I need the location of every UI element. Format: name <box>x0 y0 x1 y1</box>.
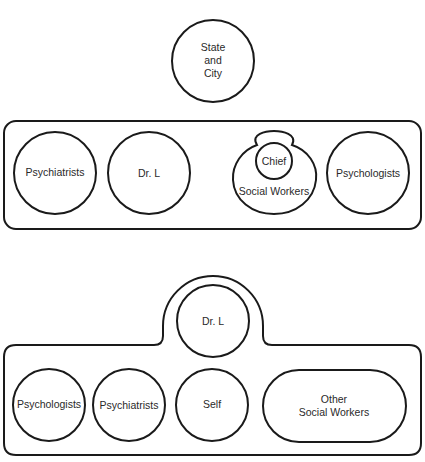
top-psychiatrists-node: Psychiatrists <box>14 132 96 214</box>
state-and-city-label-line1: State <box>201 41 226 53</box>
bottom-psychologists-label: Psychologists <box>17 398 81 410</box>
top-psychologists-node: Psychologists <box>327 132 409 214</box>
social-workers-label: Social Workers <box>239 185 309 197</box>
bottom-diagram: Dr. L Psychologists Psychiatrists Self O… <box>4 276 421 455</box>
state-and-city-label-line2: and <box>204 54 222 66</box>
bottom-psychiatrists-node: Psychiatrists <box>93 369 165 441</box>
state-and-city-label-line3: City <box>204 67 223 79</box>
top-dr-l-label: Dr. L <box>138 167 160 179</box>
other-social-workers-label-line2: Social Workers <box>299 406 369 418</box>
bottom-dr-l-node: Dr. L <box>177 285 249 357</box>
top-psychologists-label: Psychologists <box>336 167 400 179</box>
bottom-psychiatrists-label: Psychiatrists <box>100 399 159 411</box>
organization-diagram: State and City Psychiatrists Dr. L Chief… <box>0 0 425 462</box>
top-psychiatrists-label: Psychiatrists <box>26 166 85 178</box>
top-dr-l-node: Dr. L <box>108 132 190 214</box>
bottom-self-node: Self <box>176 369 248 441</box>
bottom-psychologists-node: Psychologists <box>13 369 85 441</box>
state-and-city-node: State and City <box>172 20 254 102</box>
bottom-dr-l-label: Dr. L <box>202 315 224 327</box>
chief-label: Chief <box>262 155 287 167</box>
top-diagram: State and City Psychiatrists Dr. L Chief… <box>4 20 421 229</box>
bottom-agency-container <box>4 276 421 455</box>
top-social-workers-node: Chief Social Workers <box>233 131 316 214</box>
other-social-workers-label-line1: Other <box>321 393 348 405</box>
self-label: Self <box>203 398 221 410</box>
other-social-workers-node: Other Social Workers <box>263 370 406 442</box>
